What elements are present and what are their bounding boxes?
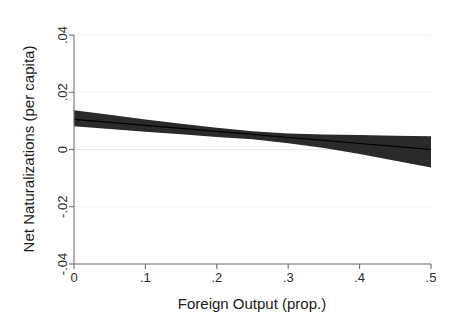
y-axis-title: Net Naturalizations (per capita) — [20, 46, 37, 253]
x-tick-label-3: .3 — [283, 270, 294, 285]
chart-figure: .04.020-.02-.04 0.1.2.3.4.5 Foreign Outp… — [0, 0, 463, 334]
y-tick-label-1: .02 — [55, 83, 70, 101]
x-tick-label-1: .1 — [140, 270, 151, 285]
x-tick-label-2: .2 — [211, 270, 222, 285]
y-tick-label-4: -.04 — [55, 253, 70, 275]
chart-canvas: .04.020-.02-.04 0.1.2.3.4.5 Foreign Outp… — [0, 0, 463, 334]
y-tick-label-3: -.02 — [55, 196, 70, 218]
x-axis-title: Foreign Output (prop.) — [178, 295, 326, 312]
x-tick-label-5: .5 — [426, 270, 437, 285]
y-tick-label-2: 0 — [55, 146, 70, 153]
x-tick-label-0: 0 — [70, 270, 77, 285]
x-tick-label-4: .4 — [354, 270, 365, 285]
y-tick-label-0: .04 — [55, 26, 70, 44]
